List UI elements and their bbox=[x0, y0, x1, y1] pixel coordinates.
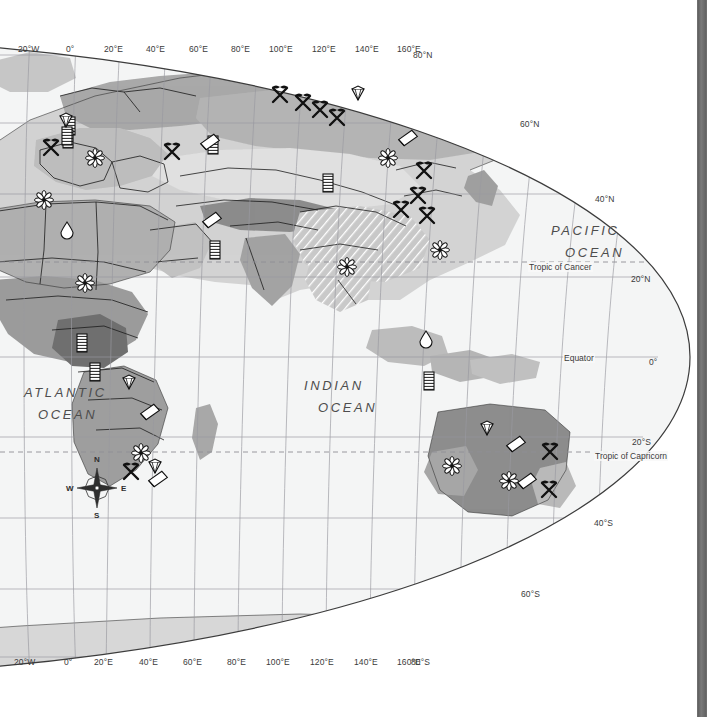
longitude-label-bottom-0: 20°W bbox=[14, 657, 35, 667]
oil-barrel-icon bbox=[323, 174, 333, 192]
longitude-label-bottom-8: 140°E bbox=[354, 657, 378, 667]
compass-south-label: S bbox=[94, 511, 99, 520]
longitude-label-top-4: 60°E bbox=[189, 44, 208, 54]
oil-barrel-icon bbox=[210, 241, 220, 259]
longitude-label-bottom-2: 20°E bbox=[94, 657, 113, 667]
scrollbar-thumb[interactable] bbox=[698, 0, 706, 717]
longitude-label-bottom-7: 120°E bbox=[310, 657, 334, 667]
ocean-label-2-line-0: PACIFIC bbox=[551, 223, 620, 238]
flower-icon bbox=[86, 149, 105, 168]
latitude-label-8: 80°S bbox=[411, 657, 430, 667]
flower-icon bbox=[338, 258, 357, 277]
longitude-label-top-7: 120°E bbox=[312, 44, 336, 54]
map-page: 20°W0°20°E40°E60°E80°E100°E120°E140°E160… bbox=[0, 0, 707, 717]
latitude-label-6: 40°S bbox=[594, 518, 613, 528]
longitude-label-top-5: 80°E bbox=[231, 44, 250, 54]
longitude-label-top-1: 0° bbox=[66, 44, 74, 54]
longitude-label-bottom-1: 0° bbox=[64, 657, 72, 667]
compass-labels: N W E S bbox=[66, 455, 128, 521]
compass-east-label: E bbox=[121, 484, 126, 493]
compass-north-label: N bbox=[94, 455, 100, 464]
longitude-label-top-3: 40°E bbox=[146, 44, 165, 54]
longitude-label-top-8: 140°E bbox=[355, 44, 379, 54]
oil-barrel-icon bbox=[62, 127, 72, 145]
flower-icon bbox=[76, 274, 95, 293]
oil-barrel-icon bbox=[77, 334, 87, 352]
special-line-label-equator: Equator bbox=[563, 353, 595, 363]
flower-icon bbox=[379, 149, 398, 168]
special-line-label-tropic-of-cancer: Tropic of Cancer bbox=[528, 262, 593, 272]
ocean-label-0-line-0: ATLANTIC bbox=[24, 385, 107, 400]
longitude-label-top-0: 20°W bbox=[18, 44, 39, 54]
oil-barrel-icon bbox=[424, 372, 434, 390]
latitude-label-3: 20°N bbox=[631, 274, 650, 284]
latitude-label-1: 60°N bbox=[520, 119, 539, 129]
longitude-label-top-6: 100°E bbox=[269, 44, 293, 54]
longitude-label-bottom-5: 80°E bbox=[227, 657, 246, 667]
special-line-label-tropic-of-capricorn: Tropic of Capricorn bbox=[594, 451, 668, 461]
compass-west-label: W bbox=[66, 484, 74, 493]
vertical-scrollbar[interactable] bbox=[697, 0, 707, 717]
flower-icon bbox=[132, 444, 151, 463]
ocean-label-0-line-1: OCEAN bbox=[38, 407, 97, 422]
latitude-label-0: 80°N bbox=[413, 50, 432, 60]
latitude-label-5: 20°S bbox=[632, 437, 651, 447]
flower-icon bbox=[431, 241, 450, 260]
flower-icon bbox=[500, 472, 519, 491]
latitude-label-2: 40°N bbox=[595, 194, 614, 204]
longitude-label-bottom-3: 40°E bbox=[139, 657, 158, 667]
latitude-label-4: 0° bbox=[649, 357, 657, 367]
ocean-label-1-line-1: OCEAN bbox=[318, 400, 377, 415]
flower-icon bbox=[443, 457, 462, 476]
latitude-label-7: 60°S bbox=[521, 589, 540, 599]
longitude-label-top-2: 20°E bbox=[104, 44, 123, 54]
oil-barrel-icon bbox=[90, 363, 100, 381]
longitude-label-bottom-4: 60°E bbox=[183, 657, 202, 667]
ocean-label-1-line-0: INDIAN bbox=[304, 378, 364, 393]
flower-icon bbox=[35, 191, 54, 210]
world-map-viewport[interactable]: 20°W0°20°E40°E60°E80°E100°E120°E140°E160… bbox=[0, 0, 697, 717]
longitude-label-bottom-6: 100°E bbox=[266, 657, 290, 667]
ocean-label-2-line-1: OCEAN bbox=[565, 245, 624, 260]
